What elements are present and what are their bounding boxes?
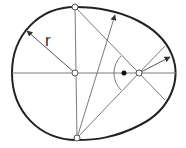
top-point [72,4,78,10]
right-center-point [136,70,142,76]
top-to-lower-right-line [75,7,165,100]
bottom-to-top-arrow [77,15,115,138]
right-center-arrow-lower [139,57,170,73]
radius-label: r [45,31,51,50]
bottom-to-right-center-line [77,73,139,138]
right-center-arrow-upper [139,46,165,73]
radius-arrow [27,31,75,73]
center-point [72,70,78,76]
bottom-point [74,135,80,141]
focus-dot [122,71,127,76]
egg-curve-diagram: r [0,0,186,148]
